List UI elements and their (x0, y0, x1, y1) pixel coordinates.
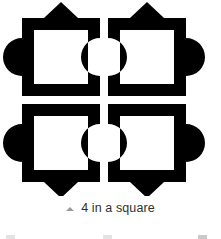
figure-panel (0, 0, 221, 196)
triangle-up-icon (66, 207, 74, 211)
tile-grid-graphic (0, 0, 221, 196)
caption-label: 4 in a square (81, 201, 155, 215)
figure-caption: 4 in a square (0, 196, 221, 220)
artifact-mark (6, 235, 15, 239)
artifact-mark (198, 235, 207, 239)
artifact-mark (103, 235, 112, 239)
bottom-edge-artifacts (0, 226, 221, 239)
